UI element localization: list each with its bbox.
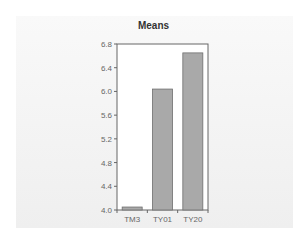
y-tick-label: 5.2 xyxy=(101,135,113,144)
y-tick-label: 4.0 xyxy=(101,206,113,215)
x-tick-label: TY20 xyxy=(183,215,203,224)
bar-chart: 4.04.44.85.25.66.06.46.8 TM3TY01TY20 xyxy=(0,0,307,243)
y-tick-label: 6.8 xyxy=(101,40,113,49)
x-tick-label: TM3 xyxy=(124,215,141,224)
y-tick-label: 4.8 xyxy=(101,159,113,168)
y-tick-label: 5.6 xyxy=(101,111,113,120)
bar-ty01 xyxy=(153,89,173,210)
bar-tm3 xyxy=(122,207,142,210)
y-tick-label: 6.4 xyxy=(101,64,113,73)
bar-ty20 xyxy=(183,53,203,210)
x-tick-label: TY01 xyxy=(153,215,173,224)
y-tick-label: 4.4 xyxy=(101,182,113,191)
y-axis: 4.04.44.85.25.66.06.46.8 xyxy=(101,40,117,215)
x-axis: TM3TY01TY20 xyxy=(117,210,208,224)
y-tick-label: 6.0 xyxy=(101,87,113,96)
